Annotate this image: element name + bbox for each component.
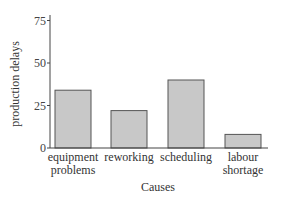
x-tick-label: reworking xyxy=(104,150,153,164)
x-tick-label: labour xyxy=(228,150,259,164)
y-tick-label: 75 xyxy=(34,14,46,28)
bar xyxy=(55,90,91,148)
y-tick-label: 50 xyxy=(34,56,46,70)
y-axis: 0255075 xyxy=(34,14,50,156)
x-tick-label: scheduling xyxy=(160,150,212,164)
x-axis: equipmentproblemsreworkingschedulinglabo… xyxy=(48,148,268,177)
x-axis-title: Causes xyxy=(141,180,175,194)
x-tick-label: equipment xyxy=(48,150,99,164)
bar xyxy=(168,80,204,148)
y-axis-title: production delays xyxy=(8,41,22,127)
bar xyxy=(111,111,147,148)
bars-group xyxy=(55,80,261,148)
y-tick-label: 0 xyxy=(40,141,46,155)
x-tick-label: shortage xyxy=(223,163,264,177)
bar xyxy=(225,134,261,148)
bar-chart: 0255075 equipmentproblemsreworkingschedu… xyxy=(0,0,283,205)
x-tick-label: problems xyxy=(51,163,96,177)
y-tick-label: 25 xyxy=(34,99,46,113)
